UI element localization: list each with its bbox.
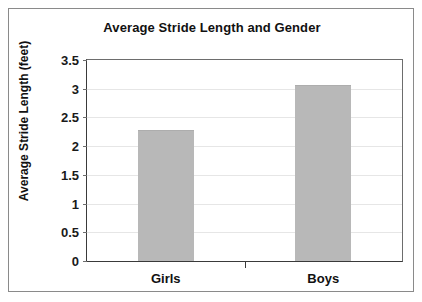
gridline [87, 117, 402, 118]
y-axis-tick-mark [83, 261, 87, 262]
y-axis-tick-label: 2 [72, 139, 79, 154]
y-axis-tick-mark [83, 175, 87, 176]
y-axis-tick-label: 3 [72, 81, 79, 96]
chart-title: Average Stride Length and Gender [9, 20, 415, 35]
y-axis-tick-label: 0.5 [61, 225, 79, 240]
y-axis-tick-mark [83, 204, 87, 205]
chart-figure: Average Stride Length and Gender Average… [8, 8, 414, 292]
gridline [87, 146, 402, 147]
bar-boys [295, 85, 351, 261]
y-axis-tick-label: 1.5 [61, 167, 79, 182]
y-axis-tick-mark [83, 232, 87, 233]
x-axis-category-divider [245, 261, 246, 268]
gridline [87, 232, 402, 233]
y-axis-title: Average Stride Length (feet) [17, 14, 31, 229]
y-axis-tick-mark [83, 146, 87, 147]
gridline [87, 204, 402, 205]
y-axis-tick-mark [83, 117, 87, 118]
y-axis-tick-label: 1 [72, 196, 79, 211]
y-axis-tick-label: 2.5 [61, 110, 79, 125]
bar-girls [138, 130, 194, 261]
gridline [87, 89, 402, 90]
x-axis-tick-label: Boys [307, 271, 339, 286]
plot-area: 00.511.522.533.5GirlsBoys [86, 59, 403, 262]
gridline [87, 175, 402, 176]
x-axis-tick-label: Girls [151, 271, 181, 286]
y-axis-tick-label: 0 [72, 254, 79, 269]
y-axis-tick-mark [83, 89, 87, 90]
y-axis-tick-label: 3.5 [61, 53, 79, 68]
y-axis-tick-mark [83, 60, 87, 61]
